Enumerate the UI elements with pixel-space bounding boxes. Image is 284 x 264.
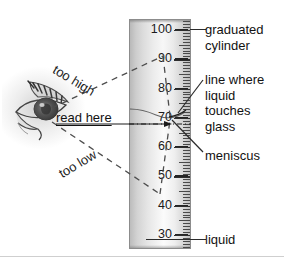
tick-mark (183, 223, 190, 224)
tick-mark (183, 232, 190, 233)
tick-mark (183, 97, 190, 98)
tick-mark (183, 194, 190, 195)
bottom-divider (0, 256, 284, 257)
tick-mark (183, 144, 190, 145)
callout-liquid: liquid (205, 232, 235, 248)
scale-label-70: 70 (136, 111, 172, 123)
scale-dash-30 (175, 234, 188, 235)
callout-line-where-liquid-touches-glass: line where liquid touches glass (205, 72, 264, 134)
scale-dash-100 (175, 29, 188, 30)
tick-mark (183, 215, 190, 216)
tick-mark (183, 86, 190, 87)
scale-dash-80 (175, 88, 188, 89)
tick-mark (183, 124, 190, 125)
tick-mark (183, 36, 190, 37)
tick-mark (183, 27, 190, 28)
tick-mark (183, 92, 190, 93)
tick-mark (183, 24, 190, 25)
scale-label-40: 40 (136, 199, 172, 211)
tick-mark (183, 42, 190, 43)
callout-graduated-cylinder-line2: cylinder (205, 38, 264, 54)
tick-mark (183, 135, 190, 136)
tick-mark (183, 209, 190, 210)
tick-mark (183, 68, 190, 69)
tick-mark (183, 229, 190, 230)
scale-label-100: 100 (136, 23, 172, 35)
tick-mark (183, 56, 190, 57)
tick-mark (179, 191, 190, 192)
tick-mark (183, 33, 190, 34)
tick-mark (179, 103, 190, 104)
tick-mark (183, 71, 190, 72)
tick-mark (183, 171, 190, 172)
tick-mark (183, 217, 190, 218)
tick-mark (183, 247, 190, 248)
tick-mark (183, 182, 190, 183)
scale-dash-70 (175, 117, 188, 118)
tick-mark (183, 168, 190, 169)
scale-label-50: 50 (136, 169, 172, 181)
figure-canvas: 10090807060504030 (0, 0, 284, 264)
tick-mark (183, 212, 190, 213)
leader-graduated-cylinder (190, 29, 206, 30)
tick-mark (179, 74, 190, 75)
tick-mark (183, 53, 190, 54)
tick-mark (183, 39, 190, 40)
tick-mark (183, 226, 190, 227)
callout-line-where-line3: touches (205, 103, 264, 119)
tick-mark (183, 48, 190, 49)
read-here-label: read here (56, 110, 112, 125)
tick-mark (183, 130, 190, 131)
tick-mark (183, 197, 190, 198)
scale-label-90: 90 (136, 52, 172, 64)
scale-dash-40 (175, 205, 188, 206)
tick-mark (179, 162, 190, 163)
tick-mark (183, 141, 190, 142)
callout-graduated-cylinder-line1: graduated (205, 22, 264, 38)
tick-mark (183, 244, 190, 245)
tick-mark (183, 153, 190, 154)
callout-line-where-line4: glass (205, 119, 264, 135)
tick-mark (183, 174, 190, 175)
tick-mark (183, 156, 190, 157)
tick-mark (183, 121, 190, 122)
tick-mark (183, 179, 190, 180)
tick-mark (183, 21, 190, 22)
scale-label-60: 60 (136, 140, 172, 152)
scale-dash-50 (175, 175, 188, 176)
tick-mark (183, 109, 190, 110)
leader-liquid (146, 239, 206, 240)
tick-mark (179, 220, 190, 221)
tick-mark (183, 200, 190, 201)
scale-dash-90 (175, 58, 188, 59)
tick-mark (183, 83, 190, 84)
too-low-label: too low (56, 147, 99, 181)
callout-line-where-line1: line where (205, 72, 264, 88)
tick-mark (183, 185, 190, 186)
tick-mark (183, 188, 190, 189)
tick-mark (183, 100, 190, 101)
tick-mark (183, 112, 190, 113)
tick-mark (183, 115, 190, 116)
tick-mark (183, 65, 190, 66)
tick-mark (183, 241, 190, 242)
callout-meniscus: meniscus (205, 148, 260, 164)
tick-mark (183, 159, 190, 160)
tick-mark (183, 106, 190, 107)
tick-mark (179, 45, 190, 46)
tick-mark (183, 80, 190, 81)
tick-mark (183, 51, 190, 52)
scale-label-80: 80 (136, 82, 172, 94)
tick-mark (183, 127, 190, 128)
tick-mark (183, 138, 190, 139)
tick-mark (183, 62, 190, 63)
tick-mark (183, 203, 190, 204)
scale-dash-60 (175, 146, 188, 147)
callout-graduated-cylinder: graduated cylinder (205, 22, 264, 53)
tick-mark (183, 150, 190, 151)
tick-mark (183, 94, 190, 95)
tick-mark (179, 133, 190, 134)
callout-line-where-line2: liquid (205, 88, 264, 104)
tick-mark (183, 165, 190, 166)
tick-mark (183, 77, 190, 78)
